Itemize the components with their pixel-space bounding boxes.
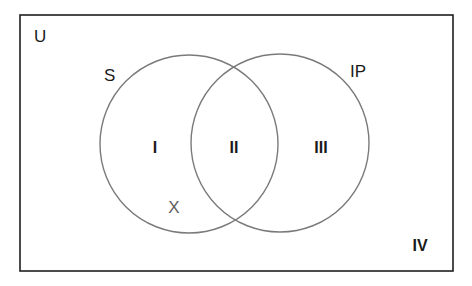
region-iii-label: III xyxy=(314,139,327,156)
region-i-label: I xyxy=(153,139,157,156)
set-s-label: S xyxy=(104,66,115,85)
region-ii-label: II xyxy=(230,139,239,156)
set-s-circle xyxy=(100,55,278,233)
set-ip-label: IP xyxy=(350,62,366,81)
marker-x-label: X xyxy=(168,198,179,217)
region-iv-label: IV xyxy=(412,237,427,254)
universe-label: U xyxy=(34,27,46,46)
set-ip-circle xyxy=(191,54,369,232)
venn-diagram: U S IP I II III IV X xyxy=(0,0,472,286)
